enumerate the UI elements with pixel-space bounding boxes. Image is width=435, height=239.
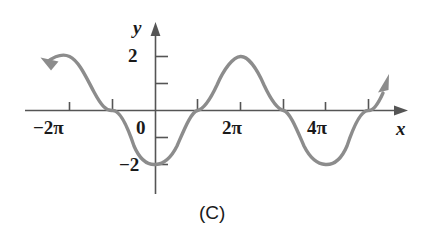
y-axis-arrowhead — [151, 22, 161, 36]
x-axis-label: x — [396, 119, 406, 138]
origin-label: 0 — [136, 118, 146, 137]
y-tick-label-pos2: 2 — [128, 46, 138, 65]
y-axis-label: y — [133, 18, 141, 37]
y-tick-label-neg2: −2 — [119, 155, 139, 174]
x-tick-label-2pi: 2π — [222, 118, 242, 137]
curve-right-arrowhead — [378, 74, 389, 93]
x-tick-label-4pi: 4π — [307, 118, 327, 137]
figure-container: −2π 0 2π 4π 2 −2 x y (C) — [0, 0, 435, 239]
x-axis-arrowhead — [394, 106, 408, 116]
x-tick-label-neg2pi: −2π — [33, 118, 64, 137]
panel-label: (C) — [199, 203, 225, 222]
